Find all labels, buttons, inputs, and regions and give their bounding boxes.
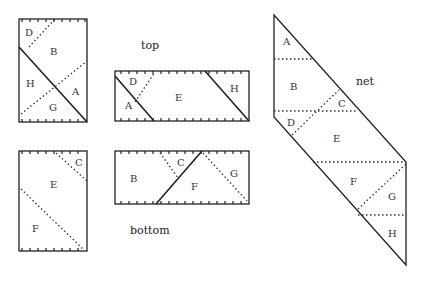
label-d: D [287, 117, 295, 128]
label-f: F [350, 176, 357, 187]
label-a: A [282, 36, 291, 47]
label-b: B [290, 81, 297, 92]
caption-top: top [141, 39, 159, 52]
label-g: G [230, 168, 238, 179]
label-g: G [49, 102, 57, 113]
dotted-line-c [160, 153, 178, 178]
fold-c-d [292, 90, 339, 135]
dotted-line-f [21, 189, 84, 250]
label-c: C [177, 157, 185, 168]
label-a: A [124, 100, 133, 111]
label-c: C [75, 157, 83, 168]
caption-net: net [356, 75, 375, 88]
label-f: F [191, 181, 198, 192]
label-d: D [25, 27, 33, 38]
label-e: E [50, 179, 57, 190]
label-a: A [71, 86, 80, 97]
panel-top-strip: D A E H [115, 71, 249, 121]
panel-top-left: D B H A G [19, 19, 87, 122]
dotted-line-d [135, 72, 155, 102]
label-b: B [130, 173, 137, 184]
label-h: H [388, 228, 397, 239]
fold-f-g [358, 164, 406, 209]
panel-bottom-left: C E F [19, 151, 87, 251]
label-c: C [338, 98, 346, 109]
label-h: H [26, 78, 35, 89]
label-f: F [32, 223, 39, 234]
label-g: G [388, 191, 396, 202]
solid-diagonal-h [205, 71, 249, 121]
label-b: B [50, 46, 57, 57]
diagram-canvas: D B H A G top [0, 0, 426, 282]
panel-bottom-strip: B C F G [115, 151, 249, 204]
panel-net: A B C D E F G H [274, 15, 406, 265]
label-h: H [230, 83, 239, 94]
dotted-line-g [203, 153, 247, 201]
label-d: D [129, 76, 137, 87]
label-e: E [175, 92, 182, 103]
label-e: E [333, 133, 340, 144]
caption-bottom: bottom [130, 224, 170, 237]
